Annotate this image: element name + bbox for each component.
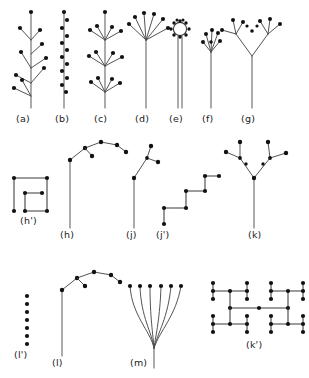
figure-root: (a) (b) (c) (d) (e) (f) (g) (h') (h) (j)… [0, 0, 309, 378]
panel-label-k: (k) [248, 230, 262, 240]
panel-label-b: (b) [55, 114, 69, 124]
panel-b-diagram [60, 10, 69, 108]
panel-label-c: (c) [94, 114, 107, 124]
panel-j-prime-diagram [162, 174, 221, 226]
panel-h-prime-diagram [12, 176, 49, 213]
panel-label-m: (m) [130, 358, 147, 368]
panel-h-diagram [68, 140, 128, 228]
panel-label-d: (d) [135, 114, 149, 124]
panel-m-diagram [128, 284, 183, 368]
panel-a-diagram [12, 10, 48, 108]
panel-label-l-prime: (l') [14, 350, 27, 360]
panel-d-diagram [127, 11, 170, 108]
panel-c-diagram [87, 10, 124, 108]
panel-label-a: (a) [16, 114, 30, 124]
panel-j-diagram [132, 144, 160, 228]
panel-k-diagram [224, 140, 288, 228]
panel-g-diagram [220, 17, 282, 108]
panel-l-diagram [60, 270, 122, 356]
panel-k-prime-diagram [211, 281, 305, 334]
panel-label-f: (f) [202, 114, 213, 124]
panel-l-prime-diagram [25, 294, 29, 346]
panel-e-diagram [169, 19, 190, 109]
panel-f-diagram [201, 28, 222, 108]
panel-label-l: (l) [52, 358, 63, 368]
panel-label-h-prime: (h') [20, 216, 37, 226]
panel-label-j: (j) [126, 230, 137, 240]
panel-label-k-prime: (k') [246, 340, 262, 350]
panel-label-h: (h) [60, 230, 74, 240]
panel-label-j-prime: (j') [156, 230, 169, 240]
panel-label-e: (e) [169, 114, 183, 124]
inflorescence-diagram-svg [0, 0, 309, 378]
panel-label-g: (g) [241, 114, 255, 124]
